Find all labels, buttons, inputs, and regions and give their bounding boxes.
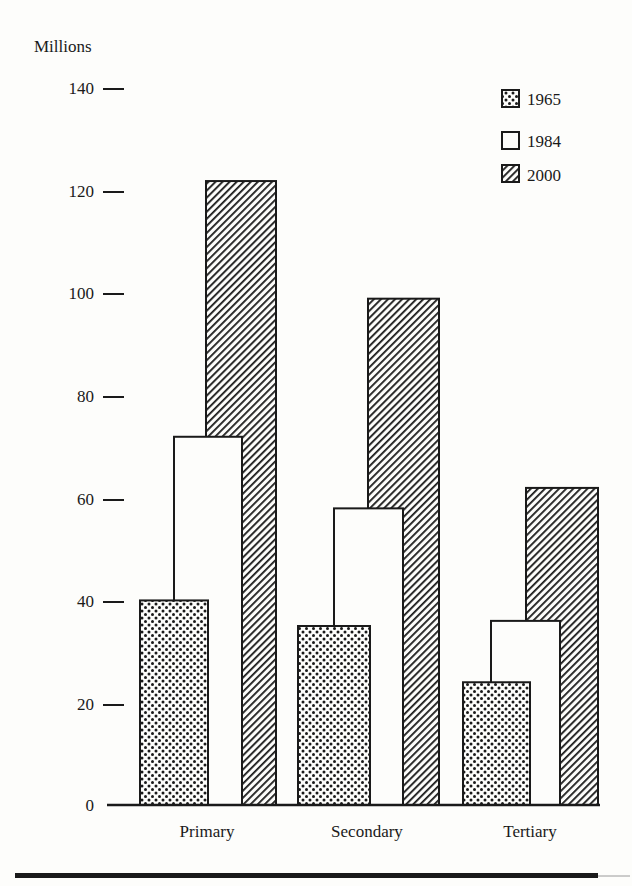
x-category-label: Tertiary	[503, 822, 557, 841]
y-axis: 140 120 100 80 60 40 20 0	[69, 79, 125, 815]
x-category-label: Primary	[180, 822, 235, 841]
legend-label: 2000	[527, 166, 561, 185]
bar-chart: Millions 140 120 100 80 60 40 20 0 Prima…	[0, 0, 632, 886]
legend-swatch-empty-icon	[502, 132, 519, 149]
legend-swatch-hatch-icon	[502, 165, 519, 182]
y-tick-label: 80	[77, 387, 94, 406]
y-tick-label: 0	[86, 796, 95, 815]
y-tick-label: 100	[69, 284, 95, 303]
y-axis-label: Millions	[34, 37, 92, 56]
legend-label: 1984	[527, 132, 562, 151]
x-category-label: Secondary	[331, 822, 403, 841]
y-tick-label: 140	[69, 79, 95, 98]
bottom-rule	[15, 873, 598, 878]
y-tick-label: 60	[77, 490, 94, 509]
legend-label: 1965	[527, 90, 561, 109]
bar-1965-tertiary	[463, 682, 530, 805]
y-tick-label: 40	[77, 592, 94, 611]
bar-1965-primary	[140, 600, 208, 805]
y-tick-label: 120	[69, 182, 95, 201]
y-tick-label: 20	[77, 695, 94, 714]
bar-1965-secondary	[298, 626, 370, 805]
legend-swatch-dots-icon	[502, 90, 519, 107]
bars	[140, 181, 598, 805]
legend: 1965 1984 2000	[502, 90, 562, 185]
